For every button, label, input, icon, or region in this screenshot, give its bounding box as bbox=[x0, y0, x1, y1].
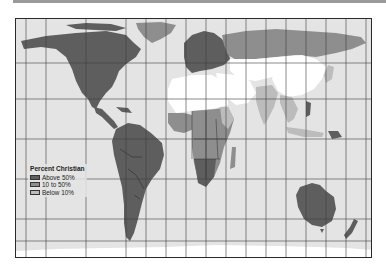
region-antarctica bbox=[16, 245, 372, 258]
region-caribbean bbox=[116, 107, 132, 113]
top-rule bbox=[13, 0, 386, 3]
region-india bbox=[256, 85, 278, 125]
region-tasmania bbox=[320, 229, 324, 233]
map-canvas bbox=[16, 19, 372, 258]
region-indonesia bbox=[286, 127, 324, 137]
legend-item-above-50: Above 50% bbox=[30, 174, 85, 182]
legend-item-below-10: Below 10% bbox=[30, 189, 85, 197]
map-legend: Percent Christian Above 50% 10 to 50% Be… bbox=[28, 164, 87, 197]
region-west-africa bbox=[168, 113, 194, 133]
region-png bbox=[328, 131, 342, 139]
region-china bbox=[272, 55, 326, 97]
world-map: Percent Christian Above 50% 10 to 50% Be… bbox=[15, 18, 372, 258]
legend-title: Percent Christian bbox=[30, 165, 85, 173]
region-southern-africa bbox=[194, 159, 216, 187]
legend-swatch-medium bbox=[30, 182, 40, 187]
legend-label: 10 to 50% bbox=[42, 181, 71, 189]
legend-label: Below 10% bbox=[42, 189, 74, 197]
legend-label: Above 50% bbox=[42, 174, 75, 182]
legend-item-10-to-50: 10 to 50% bbox=[30, 181, 85, 189]
region-arctic-islands bbox=[66, 23, 126, 31]
region-central-america bbox=[94, 107, 118, 129]
legend-swatch-light bbox=[30, 190, 40, 195]
region-australia bbox=[296, 183, 336, 227]
region-greenland bbox=[136, 22, 176, 43]
region-north-america bbox=[21, 31, 141, 109]
region-north-africa bbox=[168, 75, 228, 113]
region-philippines bbox=[306, 101, 311, 117]
region-madagascar bbox=[230, 147, 236, 169]
legend-swatch-dark bbox=[30, 175, 40, 180]
region-south-america bbox=[112, 123, 164, 241]
